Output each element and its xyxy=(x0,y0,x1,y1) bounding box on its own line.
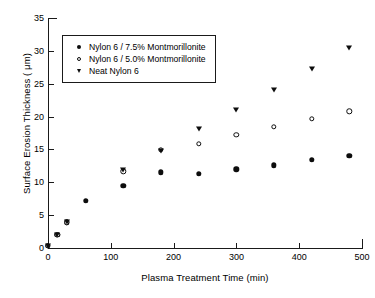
data-point xyxy=(64,220,70,225)
y-tick-label: 10 xyxy=(34,177,44,187)
legend-item-label: Nylon 6 / 7.5% Montmorillonite xyxy=(89,42,206,52)
data-point xyxy=(271,162,276,167)
legend-marker-filled-circle-icon xyxy=(69,45,89,50)
data-point xyxy=(83,198,88,203)
y-tick-label: 0 xyxy=(39,243,44,253)
legend-item: Nylon 6 / 7.5% Montmorillonite xyxy=(69,41,206,53)
y-tick-label: 5 xyxy=(39,210,44,220)
x-tick xyxy=(236,243,237,248)
chart-figure: Surface Erosion Thickness ( μm) Plasma T… xyxy=(0,0,375,298)
x-tick-label: 400 xyxy=(292,252,307,262)
legend-marker-open-circle-icon xyxy=(69,57,89,62)
legend: Nylon 6 / 7.5% Montmorillonite Nylon 6 /… xyxy=(62,35,216,83)
y-tick xyxy=(49,149,54,150)
x-tick-label: 200 xyxy=(166,252,181,262)
x-tick xyxy=(111,243,112,248)
legend-item: Neat Nylon 6 xyxy=(69,65,206,77)
y-tick-label: 15 xyxy=(34,144,44,154)
y-tick xyxy=(49,18,54,19)
x-axis-label: Plasma Treatment Time (min) xyxy=(48,272,362,283)
data-point xyxy=(54,232,60,237)
data-point xyxy=(121,183,126,188)
x-tick xyxy=(362,243,363,248)
y-tick-label: 35 xyxy=(34,13,44,23)
y-tick xyxy=(49,182,54,183)
x-tick-label: 100 xyxy=(103,252,118,262)
data-point xyxy=(309,116,314,121)
x-tick xyxy=(299,243,300,248)
y-axis-label: Surface Erosion Thickness ( μm) xyxy=(21,14,32,234)
data-point xyxy=(271,124,276,129)
data-point xyxy=(196,127,202,132)
y-tick-label: 30 xyxy=(34,46,44,56)
data-point xyxy=(309,66,315,71)
data-point xyxy=(233,108,239,113)
data-point xyxy=(347,109,352,114)
data-point xyxy=(234,166,239,171)
legend-marker-down-triangle-icon xyxy=(69,69,89,73)
y-tick xyxy=(49,84,54,85)
legend-item-label: Neat Nylon 6 xyxy=(89,66,139,76)
x-tick-label: 500 xyxy=(354,252,369,262)
x-tick xyxy=(174,243,175,248)
y-tick xyxy=(49,117,54,118)
data-point xyxy=(271,87,277,92)
x-axis-line xyxy=(48,248,363,249)
x-tick-label: 0 xyxy=(45,252,50,262)
data-point xyxy=(347,153,352,158)
data-point xyxy=(196,141,201,146)
y-tick-label: 25 xyxy=(34,79,44,89)
data-point xyxy=(234,132,239,137)
data-point xyxy=(196,171,201,176)
data-point xyxy=(45,244,51,249)
legend-item-label: Nylon 6 / 5.0% Montmorillonite xyxy=(89,54,206,64)
data-point xyxy=(158,149,164,154)
y-tick xyxy=(49,51,54,52)
legend-item: Nylon 6 / 5.0% Montmorillonite xyxy=(69,53,206,65)
data-point xyxy=(158,170,163,175)
y-tick-label: 20 xyxy=(34,112,44,122)
data-point xyxy=(309,157,314,162)
data-point xyxy=(346,46,352,51)
data-point xyxy=(120,168,126,173)
y-tick xyxy=(49,215,54,216)
x-tick-label: 300 xyxy=(229,252,244,262)
